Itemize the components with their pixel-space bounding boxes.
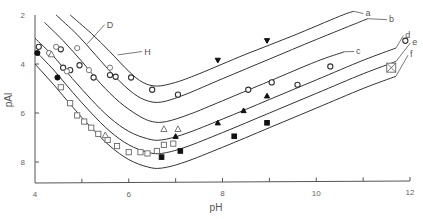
curve-f (35, 64, 396, 168)
annotation-label-H: H (144, 47, 151, 57)
marker-square-open (154, 148, 159, 153)
annotation-leader-D (87, 25, 104, 44)
x-tick-label: 8 (220, 189, 225, 198)
marker-circle-filled (35, 50, 40, 55)
y-tick-label: 4 (21, 60, 26, 69)
marker-circle-open (269, 80, 274, 85)
marker-square-open (171, 141, 176, 146)
curve-label-a: a (365, 8, 370, 18)
marker-square-open (58, 85, 63, 90)
marker-triangle-open (175, 126, 181, 132)
curve-label-f: f (410, 49, 413, 59)
marker-square-filled (159, 155, 164, 160)
x-tick-label: 10 (312, 189, 321, 198)
marker-triangle-filled (264, 93, 269, 98)
marker-triangle-down-filled (264, 39, 269, 44)
marker-square-open (96, 131, 101, 136)
annotation-leader-H (118, 52, 142, 55)
curve-label-e: e (412, 37, 417, 47)
marker-circle-open (91, 75, 96, 80)
marker-circle-filled (55, 75, 60, 80)
marker-circle-open (128, 75, 133, 80)
marker-circle-open (150, 87, 155, 92)
marker-circle-open (107, 72, 112, 77)
marker-square-open (145, 151, 150, 156)
marker-square-open (114, 143, 119, 148)
y-tick-label: 2 (21, 11, 26, 20)
annotation-label-D: D (107, 20, 114, 30)
marker-square-open (161, 142, 166, 147)
x-tick-label: 6 (127, 190, 132, 199)
marker-circle-open (77, 63, 82, 68)
marker-square-open (82, 119, 87, 124)
marker-circle-open (113, 74, 118, 79)
marker-square-open (138, 150, 143, 155)
marker-circle-open-light (75, 45, 80, 50)
y-ticks: 2468 (21, 11, 39, 167)
marker-circle-open (328, 64, 333, 69)
curve-e (35, 51, 396, 154)
marker-square-open (89, 125, 94, 130)
marker-circle-open (246, 87, 251, 92)
marker-square-open (68, 101, 73, 106)
marker-circle-open (295, 82, 300, 87)
marker-square-open (75, 113, 80, 118)
marker-triangle-open (161, 126, 167, 132)
marker-triangle-down-filled (215, 58, 220, 63)
curve-leader-d (396, 36, 403, 48)
x-ticks: 4681012 (33, 177, 415, 199)
curve-label-c: c (356, 46, 361, 56)
marker-circle-open (175, 92, 180, 97)
marker-triangle-filled (173, 134, 178, 139)
marker-circle-open-light (64, 69, 69, 74)
marker-triangle-filled (241, 108, 246, 113)
curve-leader-a (354, 11, 364, 13)
curve-leader-b (368, 19, 387, 20)
marker-circle-open-light (53, 44, 58, 49)
marker-square-filled (265, 121, 270, 126)
x-tick-label: 4 (33, 190, 38, 199)
y-tick-label: 8 (21, 158, 26, 167)
y-axis-label: pAl (3, 93, 14, 107)
chart: 4681012 2468 pH pAl abcdef DH (0, 0, 423, 219)
curve-label-b: b (389, 14, 394, 24)
marker-square-filled (178, 149, 183, 154)
marker-circle-open-light (86, 68, 91, 73)
marker-circle-open (403, 38, 408, 43)
y-tick-label: 6 (21, 109, 26, 118)
marker-circle-open (36, 44, 41, 49)
marker-triangle-filled (215, 120, 220, 125)
marker-square-open (126, 150, 131, 155)
curve-leader-e (396, 43, 410, 62)
marker-circle-open-light (107, 65, 112, 70)
marker-square-open (105, 137, 110, 142)
marker-triangle-open (102, 132, 108, 138)
curve-b (56, 15, 368, 102)
curve-leader-f (396, 55, 408, 76)
x-tick-label: 12 (406, 188, 415, 197)
marker-square-filled (232, 134, 237, 139)
curves (35, 11, 396, 168)
x-axis-label: pH (210, 202, 223, 213)
